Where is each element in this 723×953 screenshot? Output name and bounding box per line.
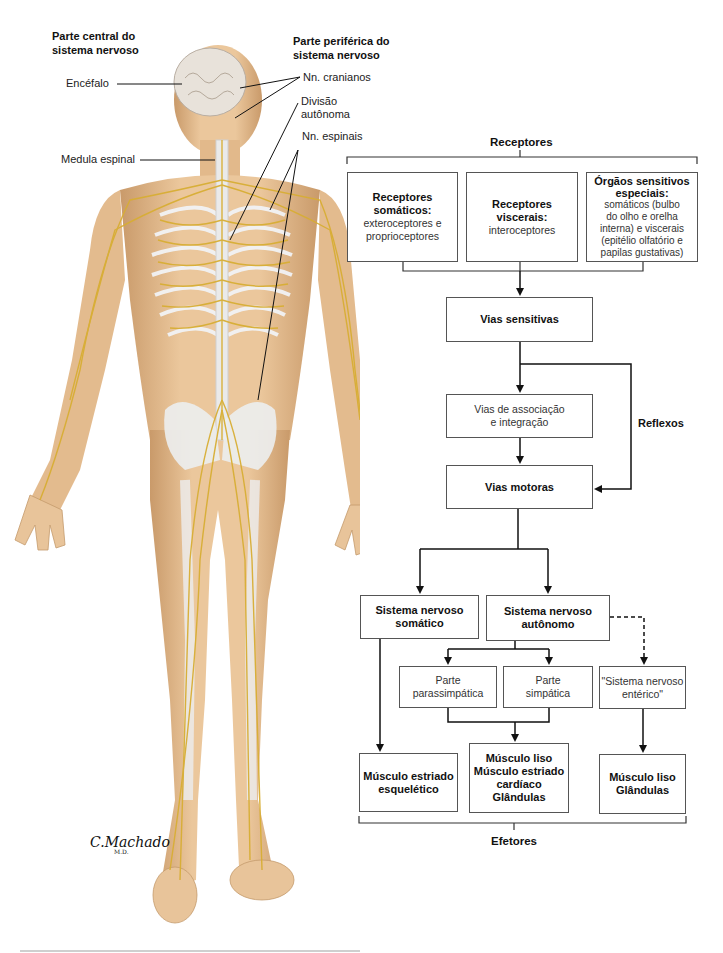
box-title: viscerais:	[497, 211, 548, 224]
reflexos-label: Reflexos	[638, 416, 684, 430]
box-title: Receptores	[492, 198, 552, 211]
box-title: Músculo liso	[609, 771, 676, 784]
box-title: somático	[395, 617, 443, 630]
box-title: Músculo estriado	[474, 765, 564, 778]
box-title: especiais:	[615, 187, 668, 199]
efetores-heading: Efetores	[491, 834, 537, 848]
box-title: Sistema nervoso	[504, 605, 592, 618]
box-efetor-autonomo: Músculo liso Músculo estriado cardíaco G…	[469, 743, 569, 813]
box-vias-associacao: Vias de associação e integração	[446, 394, 593, 438]
box-text: Parte	[535, 674, 560, 687]
box-text: somáticos (bulbo	[604, 199, 680, 211]
box-text: entérico"	[622, 688, 663, 701]
box-text: (epitélio olfatório e	[601, 235, 683, 247]
box-text: do olho e orelha	[606, 211, 678, 223]
box-title: Vias motoras	[485, 481, 554, 494]
box-text: e integração	[491, 416, 549, 429]
box-efetor-enterico: Músculo liso Glândulas	[599, 754, 686, 814]
box-title: Glândulas	[616, 784, 669, 797]
box-text: Vias de associação	[474, 403, 564, 416]
box-text: parassimpática	[413, 687, 484, 700]
box-parte-simpatica: Parte simpática	[503, 666, 593, 708]
box-receptores-viscerais: Receptores viscerais: interoceptores	[466, 172, 578, 262]
box-text: "Sistema nervoso	[602, 675, 684, 688]
box-efetor-musculo-esqueletico: Músculo estriado esquelético	[359, 753, 458, 812]
box-title: Órgãos sensitivos	[594, 175, 689, 187]
box-title: Glândulas	[492, 791, 545, 804]
box-parte-parassimpatica: Parte parassimpática	[399, 666, 497, 708]
box-sistema-nervoso-enterico: "Sistema nervoso entérico"	[599, 666, 686, 709]
receptores-heading: Receptores	[490, 135, 553, 149]
box-title: somáticos:	[373, 204, 431, 217]
box-title: Sistema nervoso	[375, 604, 463, 617]
box-title: Vias sensitivas	[480, 313, 559, 326]
box-title: esquelético	[378, 783, 439, 796]
box-text: exteroceptores e	[363, 217, 441, 230]
box-text: interna) e viscerais	[600, 223, 684, 235]
box-text: proprioceptores	[366, 230, 439, 243]
box-vias-motoras: Vias motoras	[446, 465, 593, 509]
box-title: cardíaco	[496, 778, 541, 791]
box-title: autônomo	[521, 618, 574, 631]
box-text: Parte	[435, 674, 460, 687]
box-orgaos-sensitivos-especiais: Órgãos sensitivos especiais: somáticos (…	[586, 172, 698, 262]
box-receptores-somaticos: Receptores somáticos: exteroceptores e p…	[347, 172, 458, 262]
box-sn-autonomo: Sistema nervoso autônomo	[486, 595, 610, 641]
box-vias-sensitivas: Vias sensitivas	[446, 297, 593, 342]
box-text: simpática	[526, 687, 570, 700]
box-title: Receptores	[373, 191, 433, 204]
box-title: Músculo liso	[486, 752, 553, 765]
box-sn-somatico: Sistema nervoso somático	[360, 595, 479, 639]
box-text: interoceptores	[489, 224, 556, 237]
box-text: papilas gustativas)	[601, 247, 684, 259]
box-title: Músculo estriado	[363, 770, 453, 783]
